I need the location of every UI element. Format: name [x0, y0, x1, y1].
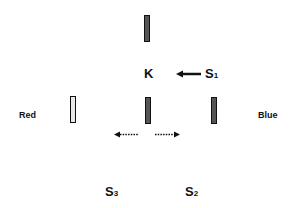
s3-subscript: 3	[114, 189, 118, 198]
s3-letter: S	[105, 184, 114, 199]
dotted-right-arrow-icon	[155, 131, 181, 138]
s2-label: S2	[185, 185, 198, 198]
diagram-canvas: K S1 Red Blue S3 S2	[0, 0, 295, 208]
s1-subscript: 1	[214, 71, 218, 80]
s2-letter: S	[185, 184, 194, 199]
s2-subscript: 2	[194, 189, 198, 198]
k-label: K	[144, 67, 153, 80]
solid-left-arrow-icon	[176, 70, 202, 78]
dotted-left-arrow-icon	[114, 131, 140, 138]
red-label: Red	[19, 111, 36, 120]
s1-label: S1	[205, 67, 218, 80]
top-bar	[144, 15, 150, 42]
blue-side-bar	[211, 97, 217, 124]
s1-letter: S	[205, 66, 214, 81]
blue-label: Blue	[258, 111, 278, 120]
red-side-bar	[70, 96, 76, 123]
center-bar	[145, 97, 151, 124]
s3-label: S3	[105, 185, 118, 198]
